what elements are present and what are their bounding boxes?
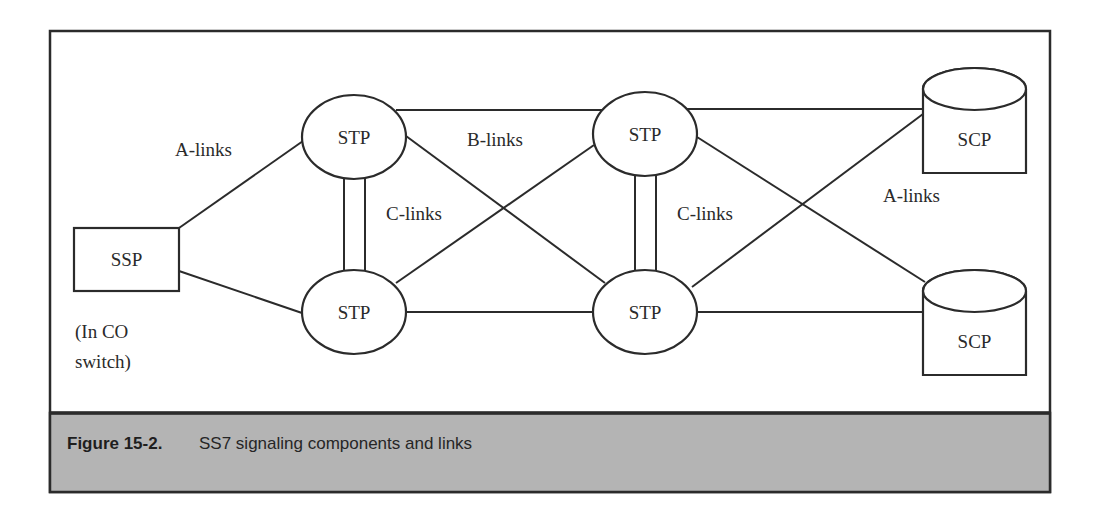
b-links-label: B-links xyxy=(467,129,523,150)
scp-top-label: SCP xyxy=(958,129,992,150)
stp-bottom-right-label: STP xyxy=(629,302,662,323)
stp-top-right-label: STP xyxy=(629,124,662,145)
figure-number: Figure 15-2. xyxy=(67,434,162,453)
stp-bottom-left-node: STP xyxy=(302,270,406,354)
stp-bottom-left-label: STP xyxy=(338,302,371,323)
stp-bottom-right-node: STP xyxy=(593,270,697,354)
c-links-right-label: C-links xyxy=(677,203,733,224)
stp-top-left-label: STP xyxy=(338,127,371,148)
scp-bottom-node: SCP xyxy=(923,270,1026,375)
ssp-label: SSP xyxy=(111,249,143,270)
scp-top-node: SCP xyxy=(923,68,1026,173)
ssp-location-note-line2: switch) xyxy=(75,351,131,373)
scp-bottom-label: SCP xyxy=(958,331,992,352)
ss7-diagram: Figure 15-2. SS7 signaling components an… xyxy=(0,0,1102,517)
ssp-node: SSP xyxy=(74,228,179,291)
stp-top-right-node: STP xyxy=(593,92,697,176)
figure-caption: SS7 signaling components and links xyxy=(199,434,472,453)
stp-top-left-node: STP xyxy=(302,95,406,179)
a-links-left-label: A-links xyxy=(175,139,232,160)
ssp-location-note-line1: (In CO xyxy=(75,321,128,343)
c-links-left-label: C-links xyxy=(386,203,442,224)
a-links-right-label: A-links xyxy=(883,185,940,206)
